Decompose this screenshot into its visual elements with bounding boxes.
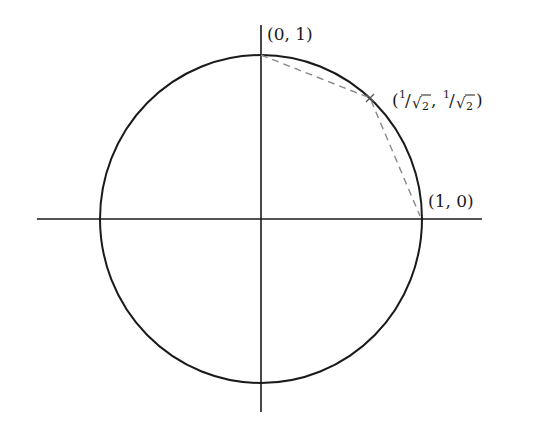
unit-circle-diagram: (0, 1) (1, 0) ( 1 / √ 2 , 1 / √ 2 ) xyxy=(0,0,537,427)
label-top-point: (0, 1) xyxy=(267,24,313,44)
svg-text:/: / xyxy=(449,90,455,110)
svg-text:√: √ xyxy=(456,94,466,112)
svg-text:/: / xyxy=(405,90,411,110)
svg-text:,: , xyxy=(431,90,436,110)
svg-text:(: ( xyxy=(392,90,399,110)
svg-text:): ) xyxy=(476,90,483,110)
label-right-point: (1, 0) xyxy=(428,191,474,211)
label-diag-point: ( 1 / √ 2 , 1 / √ 2 ) xyxy=(392,88,483,113)
svg-text:√: √ xyxy=(412,94,422,112)
point-marker-icon xyxy=(366,94,374,102)
svg-text:2: 2 xyxy=(422,100,429,113)
dashed-chord-path xyxy=(261,55,420,216)
svg-text:2: 2 xyxy=(466,100,473,113)
